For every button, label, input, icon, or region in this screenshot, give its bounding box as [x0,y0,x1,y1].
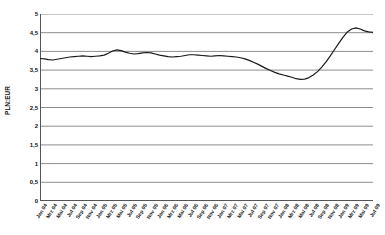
chart-container: PLN:EUR 54,543,532,521,510,50 Jan 04Mrz … [0,0,385,235]
data-series-line [40,28,373,80]
y-axis-tick-label: 2,5 [18,105,38,111]
y-axis-tick-label: 3 [18,86,38,92]
y-axis-tick-label: 3,5 [18,67,38,73]
y-axis-tick-label: 4,5 [18,30,38,36]
y-axis-tick-labels: 54,543,532,521,510,50 [14,0,38,235]
y-axis-tick-label: 4 [18,48,38,54]
gridlines [40,14,373,201]
y-axis-tick-label: 0 [18,198,38,204]
y-axis-title: PLN:EUR [0,0,14,200]
x-axis-tick-labels: Jan 04Mrz 04Mai 04Jul 04Sep 04Nov 04Jan … [40,203,385,235]
y-axis-tick-label: 5 [18,11,38,17]
y-axis-tick-label: 0,5 [18,179,38,185]
plot-area [40,14,373,201]
y-axis-title-label: PLN:EUR [4,86,11,115]
y-axis-tick-label: 2 [18,123,38,129]
y-axis-tick-label: 1,5 [18,142,38,148]
y-axis-tick-label: 1 [18,161,38,167]
chart-svg [40,14,373,201]
